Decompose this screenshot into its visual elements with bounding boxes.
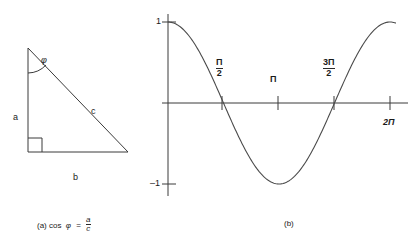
pi-over-2-denominator: 2: [216, 69, 223, 78]
figure-container: a c b φ (a) cos φ = a c 1 –1 Π 2 Π 3Π 2 …: [0, 0, 414, 250]
triangle-label-b: b: [73, 173, 78, 182]
angle-arc-icon: [28, 65, 46, 73]
triangle-angle-label-phi: φ: [41, 56, 47, 65]
three-pi-over-2-fraction: 3Π 2: [323, 58, 335, 79]
panel-a-caption-prefix: (a) cos: [37, 221, 61, 230]
right-angle-marker-icon: [28, 138, 42, 152]
triangle-label-c: c: [91, 107, 96, 116]
three-pi-over-2-denominator: 2: [323, 69, 335, 78]
three-pi-over-2-numerator: 3Π: [323, 58, 335, 67]
pi-over-2-fraction: Π 2: [216, 58, 223, 79]
figure-svg: [0, 0, 414, 250]
plot-axes-group: [162, 14, 408, 196]
panel-a-caption-fraction: a c: [86, 216, 90, 234]
x-tick-label-pi-over-2: Π 2: [216, 58, 223, 79]
panel-a-caption-denominator: c: [86, 225, 90, 233]
panel-a-caption-phi: φ: [66, 221, 71, 230]
y-axis-label-top: 1: [156, 17, 161, 26]
pi-over-2-numerator: Π: [216, 58, 223, 67]
x-tick-label-pi: Π: [270, 75, 277, 84]
panel-a-caption-equals: =: [76, 221, 81, 230]
panel-a-caption-numerator: a: [86, 216, 90, 224]
panel-b-caption: (b): [284, 220, 294, 228]
triangle-label-a: a: [13, 113, 18, 122]
x-tick-label-3pi-over-2: 3Π 2: [323, 58, 335, 79]
panel-a-caption: (a) cos φ = a c: [37, 216, 91, 234]
x-tick-label-2pi: 2Π: [383, 118, 394, 127]
y-axis-label-bottom: –1: [150, 179, 160, 188]
